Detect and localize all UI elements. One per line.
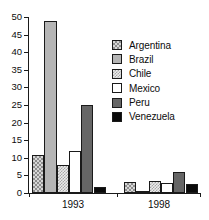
legend-label: Chile — [129, 68, 151, 79]
y-tick-label: 10 — [0, 153, 22, 163]
bar-mexico-1993 — [69, 151, 81, 193]
x-tick-mark — [29, 193, 30, 197]
bar-chile-1993 — [57, 165, 69, 193]
y-tick-label: 35 — [0, 65, 22, 75]
legend-label: Brazil — [129, 54, 153, 65]
x-tick-mark — [200, 193, 201, 197]
bar-brazil-1993 — [44, 21, 56, 193]
y-tick-label: 0 — [0, 188, 22, 198]
legend-item-peru[interactable]: Peru — [112, 96, 207, 110]
bar-group — [32, 17, 110, 193]
bar-argentina-1998 — [124, 182, 136, 193]
y-tick-label: 50 — [0, 12, 22, 22]
legend-label: Mexico — [129, 83, 160, 94]
x-axis-label-1993: 1993 — [43, 199, 103, 210]
y-tick-label: 15 — [0, 135, 22, 145]
bar-venezuela-1998 — [186, 184, 198, 193]
x-tick-mark — [117, 193, 118, 197]
legend-item-mexico[interactable]: Mexico — [112, 81, 207, 95]
legend-label: Peru — [129, 97, 150, 108]
bar-mexico-1998 — [161, 183, 173, 193]
y-tick-label: 20 — [0, 118, 22, 128]
bar-peru-1993 — [81, 105, 93, 193]
bar-peru-1998 — [173, 172, 185, 193]
bar-argentina-1993 — [32, 155, 44, 193]
legend: ArgentinaBrazilChileMexicoPeruVenezuela — [112, 38, 207, 124]
legend-swatch-icon — [112, 54, 122, 64]
bar-venezuela-1993 — [94, 187, 106, 193]
legend-swatch-icon — [112, 112, 122, 122]
legend-swatch-icon — [112, 40, 122, 50]
y-tick-label: 45 — [0, 30, 22, 40]
legend-label: Argentina — [129, 40, 171, 51]
x-axis-label-1998: 1998 — [129, 199, 189, 210]
legend-swatch-icon — [112, 83, 122, 93]
legend-swatch-icon — [112, 98, 122, 108]
legend-item-argentina[interactable]: Argentina — [112, 38, 207, 52]
y-tick-label: 30 — [0, 82, 22, 92]
bar-chile-1998 — [149, 181, 161, 193]
y-tick-label: 25 — [0, 100, 22, 110]
bar-chart: 05101520253035404550 19931998 ArgentinaB… — [0, 0, 209, 220]
bar-brazil-1998 — [136, 191, 148, 193]
x-axis-line — [28, 193, 200, 194]
legend-swatch-icon — [112, 69, 122, 79]
legend-item-venezuela[interactable]: Venezuela — [112, 110, 207, 124]
y-tick-label: 5 — [0, 170, 22, 180]
legend-item-chile[interactable]: Chile — [112, 67, 207, 81]
legend-item-brazil[interactable]: Brazil — [112, 52, 207, 66]
y-tick-label: 40 — [0, 47, 22, 57]
legend-label: Venezuela — [129, 111, 175, 122]
